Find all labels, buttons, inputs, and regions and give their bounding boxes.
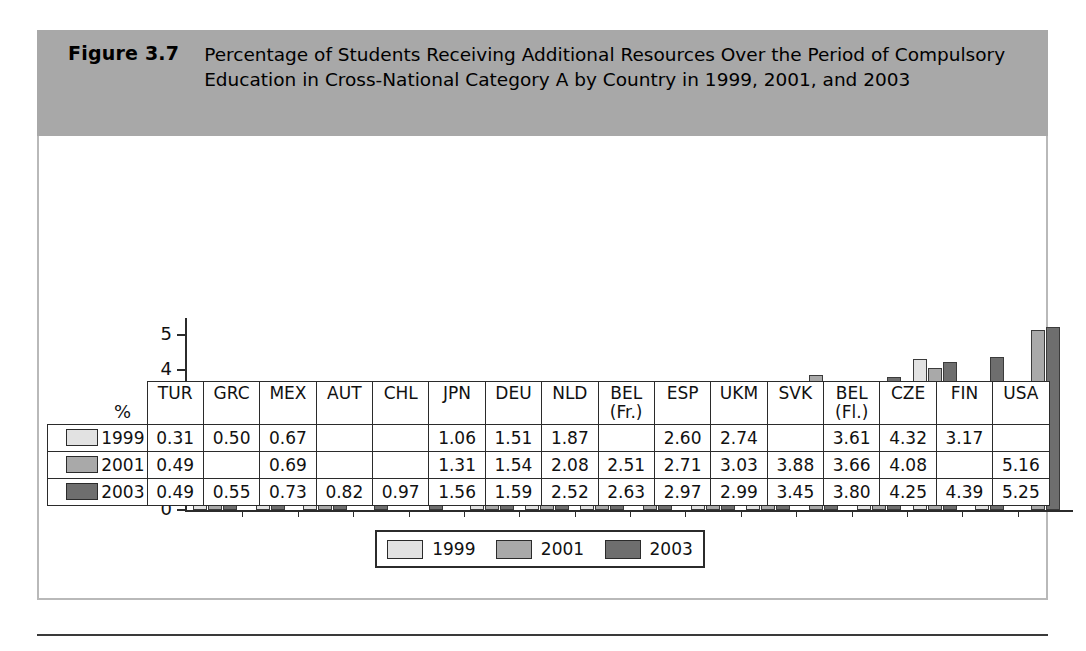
x-axis-group-tick [962, 510, 963, 517]
table-row: 20030.490.550.730.820.971.561.592.522.63… [48, 479, 1050, 506]
table-cell-SVK-2003: 3.45 [767, 479, 823, 506]
x-axis-group-tick [1018, 510, 1019, 517]
table-row: 20010.490.691.311.542.082.512.713.033.88… [48, 452, 1050, 479]
series-year-label: 2001 [101, 455, 144, 475]
column-header-label: MEX [260, 384, 315, 403]
x-axis-group-tick [242, 510, 243, 517]
column-header-label: DEU [486, 384, 541, 403]
table-cell-GRC-2001 [203, 452, 259, 479]
table-body: 19990.310.500.671.061.511.872.602.743.61… [48, 425, 1050, 506]
table-column-header-DEU: DEU [485, 382, 541, 425]
x-axis-group-tick [630, 510, 631, 517]
table-cell-JPN-2001: 1.31 [429, 452, 485, 479]
page-bottom-rule [37, 634, 1048, 636]
table-column-header-BELFr: BEL(Fr.) [598, 382, 654, 425]
table-corner-cell [48, 382, 148, 425]
figure-caption-band: Figure 3.7 Percentage of Students Receiv… [37, 30, 1048, 136]
table-column-header-NLD: NLD [542, 382, 598, 425]
x-axis-group-tick [575, 510, 576, 517]
table-column-header-USA: USA [993, 382, 1049, 425]
column-header-label: NLD [542, 384, 597, 403]
table-cell-CZE-2001: 4.08 [880, 452, 936, 479]
table-cell-BELFr-2001: 2.51 [598, 452, 654, 479]
column-header-label: BEL [824, 384, 879, 403]
series-swatch-2001 [66, 456, 98, 473]
legend-swatch-1999 [387, 540, 423, 559]
table-cell-NLD-1999: 1.87 [542, 425, 598, 452]
table-column-header-GRC: GRC [203, 382, 259, 425]
table-cell-AUT-1999 [316, 425, 372, 452]
table-column-header-AUT: AUT [316, 382, 372, 425]
table-cell-ESP-1999: 2.60 [654, 425, 710, 452]
table-cell-TUR-2001: 0.49 [147, 452, 203, 479]
table-column-header-CZE: CZE [880, 382, 936, 425]
table-column-header-MEX: MEX [260, 382, 316, 425]
column-header-label: FIN [937, 384, 992, 403]
table-cell-BELFl-2003: 3.80 [824, 479, 880, 506]
legend-swatch-2001 [496, 540, 532, 559]
table-cell-BELFl-1999: 3.61 [824, 425, 880, 452]
legend-label-1999: 1999 [432, 539, 475, 559]
table-cell-TUR-1999: 0.31 [147, 425, 203, 452]
table-cell-DEU-2001: 1.54 [485, 452, 541, 479]
series-year-label: 1999 [101, 428, 144, 448]
chart-plot-area: % 012345 [39, 136, 1046, 598]
column-header-label: UKM [711, 384, 766, 403]
table-cell-JPN-2003: 1.56 [429, 479, 485, 506]
table-row: 19990.310.500.671.061.511.872.602.743.61… [48, 425, 1050, 452]
table-column-header-BELFl: BEL(Fl.) [824, 382, 880, 425]
table-cell-ESP-2003: 2.97 [654, 479, 710, 506]
table-column-header-CHL: CHL [373, 382, 429, 425]
table-column-header-JPN: JPN [429, 382, 485, 425]
table-cell-AUT-2001 [316, 452, 372, 479]
column-header-label: JPN [429, 384, 484, 403]
chart-legend: 199920012003 [375, 530, 705, 568]
legend-swatch-2003 [605, 540, 641, 559]
table-cell-FIN-1999: 3.17 [936, 425, 992, 452]
column-header-sublabel: (Fl.) [824, 403, 879, 422]
x-axis-group-tick [464, 510, 465, 517]
table-cell-GRC-1999: 0.50 [203, 425, 259, 452]
table-cell-CHL-1999 [373, 425, 429, 452]
series-swatch-1999 [66, 429, 98, 446]
x-axis-group-tick [519, 510, 520, 517]
table-column-header-FIN: FIN [936, 382, 992, 425]
table-cell-BELFl-2001: 3.66 [824, 452, 880, 479]
table-cell-FIN-2001 [936, 452, 992, 479]
table-cell-CZE-1999: 4.32 [880, 425, 936, 452]
table-cell-MEX-2001: 0.69 [260, 452, 316, 479]
column-header-label: TUR [148, 384, 203, 403]
column-header-label: CZE [880, 384, 935, 403]
table-row-label-1999: 1999 [48, 425, 148, 452]
legend-item-1999: 1999 [387, 539, 475, 559]
x-axis-group-tick [796, 510, 797, 517]
column-header-label: BEL [599, 384, 654, 403]
table-cell-USA-2001: 5.16 [993, 452, 1049, 479]
column-header-label: AUT [317, 384, 372, 403]
table-cell-SVK-1999 [767, 425, 823, 452]
table-cell-NLD-2003: 2.52 [542, 479, 598, 506]
table-cell-BELFr-2003: 2.63 [598, 479, 654, 506]
column-header-label: GRC [204, 384, 259, 403]
x-axis-group-tick [685, 510, 686, 517]
table-column-header-SVK: SVK [767, 382, 823, 425]
table-cell-BELFr-1999 [598, 425, 654, 452]
table-cell-FIN-2003: 4.39 [936, 479, 992, 506]
legend-item-2003: 2003 [605, 539, 693, 559]
table-cell-MEX-1999: 0.67 [260, 425, 316, 452]
chart-data-table: TURGRCMEXAUTCHLJPNDEUNLDBEL(Fr.)ESPUKMSV… [47, 381, 1050, 506]
figure-title: Percentage of Students Receiving Additio… [179, 30, 1048, 92]
table-cell-JPN-1999: 1.06 [429, 425, 485, 452]
x-axis-group-tick [298, 510, 299, 517]
table-cell-CZE-2003: 4.25 [880, 479, 936, 506]
table-cell-UKM-1999: 2.74 [711, 425, 767, 452]
table-row-label-2001: 2001 [48, 452, 148, 479]
column-header-label: CHL [373, 384, 428, 403]
series-year-label: 2003 [101, 482, 144, 502]
column-header-sublabel: (Fr.) [599, 403, 654, 422]
table-column-header-ESP: ESP [654, 382, 710, 425]
table-cell-ESP-2001: 2.71 [654, 452, 710, 479]
table-cell-MEX-2003: 0.73 [260, 479, 316, 506]
table-column-header-UKM: UKM [711, 382, 767, 425]
x-axis-group-tick [907, 510, 908, 517]
